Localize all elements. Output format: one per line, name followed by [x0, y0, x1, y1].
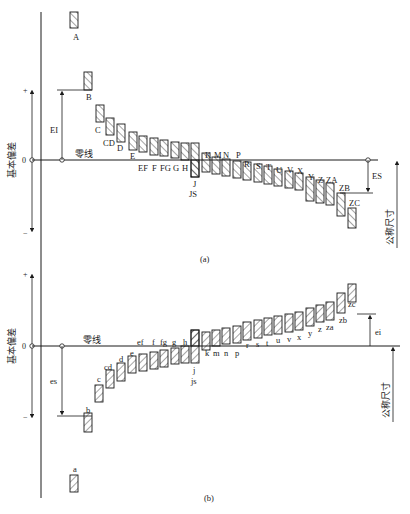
- left-axis-a: + − 0 基本偏差: [6, 86, 34, 238]
- deviation-label: V: [287, 165, 294, 175]
- deviation-label: u: [276, 335, 281, 345]
- deviation-bar-d: [117, 363, 125, 381]
- minus-sign-b: −: [23, 413, 28, 422]
- nominal-label-b: 公称尺寸: [380, 382, 391, 418]
- deviation-bar-h: [181, 346, 189, 363]
- deviation-bar-f: [150, 352, 158, 369]
- deviation-bar-fg: [160, 350, 168, 367]
- deviation-bar-b: [84, 413, 92, 432]
- deviation-label: v: [287, 334, 292, 344]
- deviation-label: JS: [189, 189, 197, 199]
- deviation-bar-m: [212, 330, 220, 346]
- ei-label: EI: [50, 125, 58, 135]
- deviation-bar-s: [254, 320, 262, 338]
- deviation-bar-e: [128, 356, 136, 373]
- deviation-label: c: [97, 374, 101, 384]
- deviation-label: z: [318, 324, 322, 334]
- deviation-label: s: [256, 339, 259, 349]
- deviation-label: H: [182, 163, 188, 173]
- deviation-bar-r: [243, 322, 251, 340]
- deviation-label: zc: [348, 299, 356, 309]
- zero-label: 0: [22, 156, 26, 165]
- deviation-bar-ZA: [326, 183, 334, 205]
- deviation-bar-B: [84, 72, 92, 90]
- deviation-label: zb: [339, 315, 347, 325]
- deviation-label: Z: [318, 175, 323, 185]
- deviation-label: y: [308, 328, 313, 338]
- deviation-bar-H: [181, 143, 189, 160]
- deviation-label: cd: [104, 362, 113, 372]
- deviation-label: C: [95, 125, 101, 135]
- minus-sign: −: [23, 229, 28, 238]
- deviation-label: P: [236, 150, 241, 160]
- deviation-bar-a: [70, 475, 78, 492]
- deviation-label: m: [213, 348, 220, 358]
- deviation-bar-y: [306, 308, 314, 326]
- es-label-b: es: [50, 376, 57, 386]
- deviation-bar-t: [264, 318, 272, 335]
- deviation-label: FG: [160, 163, 171, 173]
- deviation-bar-js: [191, 330, 199, 346]
- deviation-bar-v: [285, 314, 293, 332]
- deviation-label: js: [190, 376, 197, 386]
- deviation-label: S: [256, 161, 261, 171]
- deviation-label: b: [86, 405, 90, 415]
- fundamental-deviation-diagram: + − 0 基本偏差 零线 EI ES 公称尺寸 ABCCDDEEFFFGGHJ…: [0, 0, 410, 514]
- deviation-bar-D: [117, 124, 125, 142]
- panel-a: 零线 EI ES 公称尺寸 ABCCDDEEFFFGGHJJSKMNPRSTUV…: [32, 12, 397, 264]
- zero-line-label-b: 零线: [83, 334, 101, 345]
- deviation-label: fg: [160, 337, 168, 347]
- ei-label-b: ei: [375, 327, 382, 337]
- deviation-label: CD: [103, 138, 115, 148]
- zero-line-label-a: 零线: [75, 148, 93, 159]
- deviation-bar-CD: [106, 118, 114, 135]
- deviation-bar-A: [70, 12, 78, 28]
- axis-label-b: 基本偏差: [6, 328, 17, 364]
- deviation-bar-N: [222, 159, 230, 176]
- caption-b: (b): [204, 493, 214, 503]
- deviation-bar-ZC: [348, 208, 356, 228]
- deviation-label: R: [244, 159, 250, 169]
- nominal-label-a: 公称尺寸: [384, 209, 395, 245]
- deviation-bar-p: [233, 326, 241, 343]
- deviation-bar-ef: [139, 354, 147, 371]
- deviation-label: n: [224, 348, 229, 358]
- deviation-label: X: [297, 166, 303, 176]
- bars-a: ABCCDDEEFFFGGHJJSKMNPRSTUVXYZZAZBZC: [70, 12, 360, 228]
- deviation-label: f: [152, 337, 155, 347]
- deviation-label: a: [73, 464, 77, 474]
- deviation-label: ZA: [326, 175, 338, 185]
- deviation-bar-u: [274, 316, 282, 334]
- deviation-label: ZC: [349, 198, 360, 208]
- deviation-bar-c: [95, 385, 103, 402]
- plus-sign-b: +: [23, 270, 28, 279]
- zero-label-b: 0: [22, 342, 26, 351]
- deviation-bar-E: [129, 132, 137, 150]
- panel-b: 零线 es ei 公称尺寸 abccddeefffgghjjskmnprstuv…: [32, 284, 400, 503]
- deviation-bar-G: [171, 142, 179, 158]
- deviation-label: ef: [137, 337, 144, 347]
- deviation-label: d: [119, 354, 124, 364]
- deviation-bar-EF: [139, 136, 147, 152]
- axis-label-a: 基本偏差: [6, 142, 17, 178]
- deviation-label: ZB: [339, 183, 350, 193]
- deviation-bar-za: [326, 302, 334, 320]
- deviation-bar-P: [233, 161, 241, 178]
- deviation-bar-z: [316, 305, 324, 322]
- deviation-label: e: [130, 348, 134, 358]
- es-label: ES: [372, 171, 382, 181]
- deviation-label: B: [86, 92, 92, 102]
- deviation-label: j: [192, 365, 195, 375]
- deviation-bar-JS: [191, 160, 199, 177]
- deviation-bar-x: [295, 312, 303, 330]
- deviation-bar-zb: [337, 293, 345, 313]
- left-axis-b: + − 0 基本偏差: [6, 270, 34, 422]
- deviation-label: p: [235, 348, 239, 358]
- bars-b: abccddeefffgghjjskmnprstuvxyzzazbzc: [70, 284, 356, 492]
- deviation-bar-FG: [160, 140, 168, 156]
- deviation-label: D: [117, 143, 123, 153]
- deviation-label: T: [266, 162, 272, 172]
- deviation-label: N: [223, 150, 229, 160]
- deviation-label: K: [205, 150, 212, 160]
- deviation-label: J: [193, 179, 197, 189]
